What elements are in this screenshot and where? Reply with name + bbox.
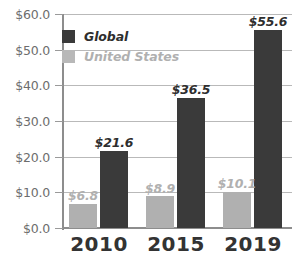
x-axis-label-2010: 2010 [62,232,136,256]
y-tick-40 [55,85,63,86]
y-axis-label-20: $20.0 [2,149,50,164]
legend-item-united-states[interactable]: United States [62,49,179,64]
bar-global-2015[interactable] [177,98,205,228]
legend-label-global: Global [84,29,128,44]
gray-square-swatch [62,50,75,63]
dark-square-swatch [62,30,75,43]
y-axis-label-30: $30.0 [2,114,50,129]
data-label-global-2010: $21.6 [92,135,136,150]
data-label-global-2019: $55.6 [246,14,290,29]
y-tick-0 [55,228,63,229]
y-tick-20 [55,157,63,158]
bar-global-2019[interactable] [254,30,282,229]
data-label-united-states-2019: $10.1 [215,176,259,191]
data-label-united-states-2010: $6.8 [61,188,105,203]
y-axis-line [62,14,64,230]
data-label-united-states-2015: $8.9 [138,181,182,196]
x-axis-label-2015: 2015 [139,232,213,256]
legend-item-global[interactable]: Global [62,29,128,44]
legend-label-united-states: United States [84,49,179,64]
y-tick-30 [55,121,63,122]
bar-united-states-2019[interactable] [223,192,251,228]
y-axis-label-60: $60.0 [2,7,50,22]
bar-united-states-2015[interactable] [146,196,174,228]
plot-area: $6.8 $21.6 $8.9 $36.5 $10.1 $55.6 [62,14,292,228]
y-axis-label-0: $0.0 [2,221,50,236]
data-label-global-2015: $36.5 [169,82,213,97]
bar-united-states-2010[interactable] [69,204,97,228]
y-axis-label-40: $40.0 [2,78,50,93]
y-tick-10 [55,192,63,193]
y-tick-60 [55,14,63,15]
bar-chart: $6.8 $21.6 $8.9 $36.5 $10.1 $55.6 $60.0 … [0,0,304,258]
y-axis-label-10: $10.0 [2,185,50,200]
x-axis-label-2019: 2019 [216,232,290,256]
y-axis-label-50: $50.0 [2,42,50,57]
